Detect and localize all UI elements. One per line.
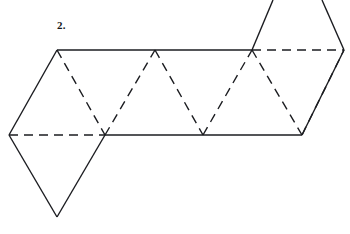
fold-1 (57, 50, 105, 135)
fold-5 (252, 50, 302, 135)
lower-flap-left (9, 135, 57, 217)
dashed-fold-lines (9, 50, 344, 135)
upper-flap-left (252, 0, 273, 50)
fold-2 (105, 50, 155, 135)
lower-flap-right (57, 135, 105, 217)
left-outer-edge (9, 50, 57, 135)
fold-4 (203, 50, 252, 135)
solid-edges (9, 0, 344, 217)
polyhedron-net-diagram (0, 0, 350, 234)
fold-3 (155, 50, 203, 135)
upper-flap-right (322, 0, 344, 50)
figure-canvas: 2. (0, 0, 350, 234)
figure-number-label: 2. (57, 19, 66, 32)
